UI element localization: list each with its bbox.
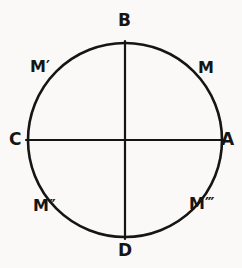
arc-label-m-triple-prime: M‴ (189, 196, 214, 212)
arc-label-m-triple-prime-base: M (189, 194, 205, 213)
arc-label-m-prime-base: M (30, 57, 46, 76)
arc-label-m-double-prime: M″ (33, 198, 55, 214)
arc-label-m-base: M (198, 58, 214, 77)
figure-canvas: B A C D M M′ M″ M‴ (0, 0, 242, 268)
point-label-b: B (118, 12, 131, 29)
arc-label-m-prime: M′ (30, 59, 49, 75)
point-label-a: A (221, 131, 234, 148)
point-label-c: C (9, 131, 21, 148)
diagram-svg (0, 0, 242, 268)
point-label-d: D (118, 242, 132, 259)
arc-label-m: M (198, 60, 214, 76)
arc-label-m-triple-prime-primes: ‴ (205, 195, 214, 213)
arc-label-m-double-prime-primes: ″ (49, 197, 55, 215)
arc-label-m-double-prime-base: M (33, 196, 49, 215)
arc-label-m-prime-primes: ′ (46, 58, 49, 76)
